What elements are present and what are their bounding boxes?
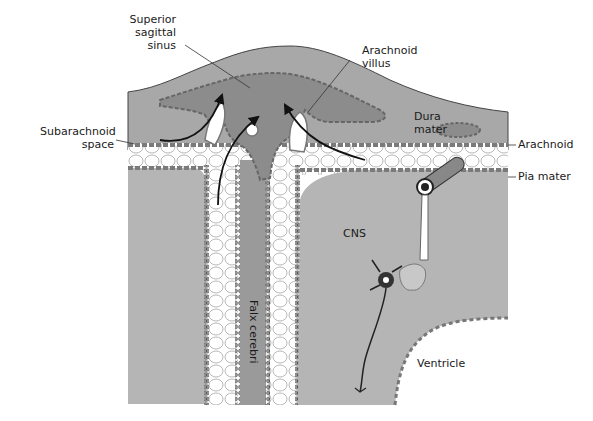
diagram-artwork [0, 0, 593, 421]
astrocyte [400, 264, 426, 290]
label-arachnoid-villus: Arachnoid villus [362, 44, 418, 70]
cns-left [128, 168, 208, 404]
subarachnoid-left-column [206, 165, 238, 405]
meninges-diagram: Superior sagittal sinus Arachnoid villus… [0, 0, 593, 421]
label-falx-cerebri: Falx cerebri [247, 300, 260, 364]
label-dura-mater: Dura mater [414, 110, 447, 136]
falx-cerebri-region [240, 160, 268, 405]
label-subarachnoid-space: Subarachnoid space [40, 125, 114, 151]
label-arachnoid: Arachnoid [518, 138, 574, 151]
label-ventricle: Ventricle [417, 357, 465, 370]
subarachnoid-right-column [266, 165, 300, 405]
label-cns: CNS [343, 227, 366, 240]
label-superior-sagittal-sinus: Superior sagittal sinus [128, 13, 176, 52]
label-pia-mater: Pia mater [518, 170, 571, 183]
